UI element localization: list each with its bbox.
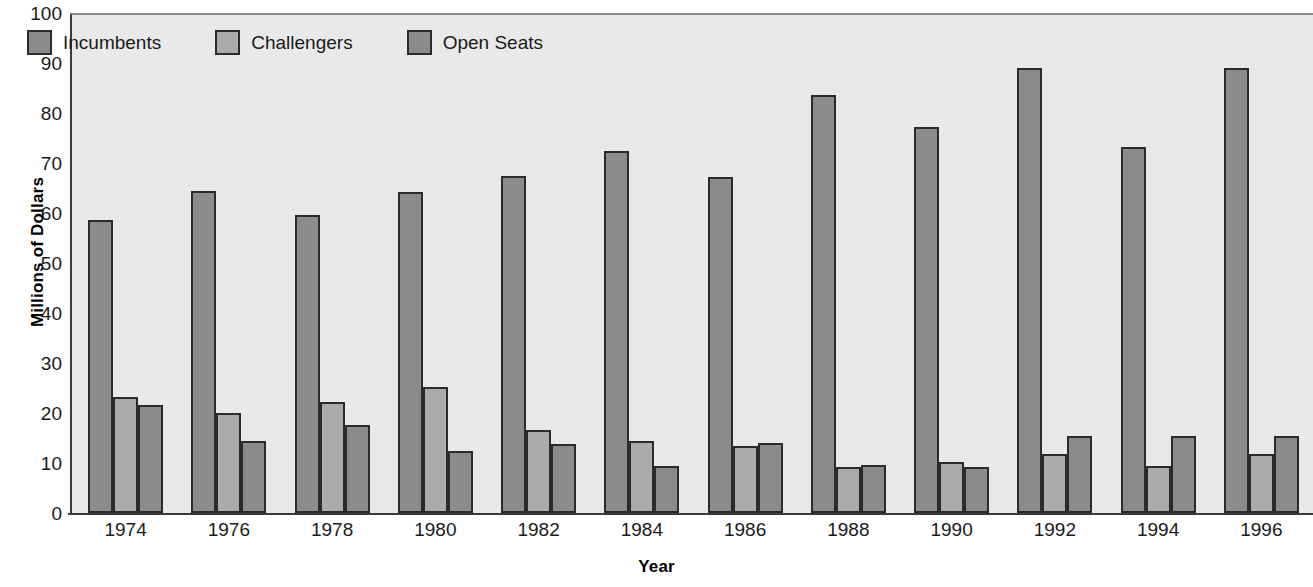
- bar-group-1988: [811, 13, 886, 513]
- x-axis-tick-label: 1996: [1240, 520, 1282, 539]
- x-axis-tick-label: 1978: [311, 520, 353, 539]
- y-axis-tick-label: 0: [6, 504, 62, 523]
- bar-chart: Millions of Dollars 10090807060504030201…: [0, 0, 1313, 587]
- x-axis-tick-label: 1976: [208, 520, 250, 539]
- legend-item-incumbents[interactable]: Incumbents: [27, 30, 161, 55]
- y-axis-tick-label: 40: [6, 304, 62, 323]
- bar-group-1992: [1017, 13, 1092, 513]
- bar-incumbents-1994: [1121, 147, 1146, 513]
- legend-swatch-icon: [407, 30, 432, 55]
- bar-incumbents-1974: [88, 220, 113, 513]
- y-axis-tick-label: 60: [6, 204, 62, 223]
- legend: IncumbentsChallengersOpen Seats: [27, 30, 543, 55]
- y-axis-tick-label: 80: [6, 104, 62, 123]
- x-axis-tick-labels: 1974197619781980198219841986198819901992…: [72, 520, 1311, 550]
- bar-group-1982: [501, 13, 576, 513]
- legend-label: Open Seats: [443, 33, 543, 52]
- bar-challengers-1976: [216, 413, 241, 513]
- bar-open-seats-1988: [861, 465, 886, 513]
- bar-open-seats-1996: [1274, 436, 1299, 514]
- legend-swatch-icon: [215, 30, 240, 55]
- bar-challengers-1980: [423, 387, 448, 514]
- bar-group-1986: [708, 13, 783, 513]
- bar-challengers-1982: [526, 430, 551, 514]
- bar-incumbents-1992: [1017, 68, 1042, 513]
- x-axis-tick-label: 1994: [1137, 520, 1179, 539]
- bar-challengers-1986: [733, 446, 758, 513]
- bar-group-1978: [295, 13, 370, 513]
- bar-group-1990: [914, 13, 989, 513]
- y-axis-tick-label: 20: [6, 404, 62, 423]
- bar-group-1994: [1121, 13, 1196, 513]
- bar-incumbents-1986: [708, 177, 733, 513]
- y-axis-tick-labels: 1009080706050403020100: [0, 0, 62, 525]
- bar-challengers-1974: [113, 397, 138, 514]
- legend-item-open-seats[interactable]: Open Seats: [407, 30, 543, 55]
- x-axis-tick-label: 1982: [517, 520, 559, 539]
- bar-challengers-1978: [320, 402, 345, 513]
- x-axis-tick-label: 1988: [827, 520, 869, 539]
- y-axis-tick-label: 90: [6, 54, 62, 73]
- bar-challengers-1984: [629, 441, 654, 514]
- bar-incumbents-1976: [191, 191, 216, 513]
- bar-group-1976: [191, 13, 266, 513]
- bar-open-seats-1986: [758, 443, 783, 514]
- bar-incumbents-1988: [811, 95, 836, 514]
- bars-layer: [72, 13, 1311, 513]
- bar-group-1980: [398, 13, 473, 513]
- y-axis-tick-label: 50: [6, 254, 62, 273]
- x-axis-tick-label: 1986: [724, 520, 766, 539]
- legend-label: Incumbents: [63, 33, 161, 52]
- x-axis-tick-label: 1980: [414, 520, 456, 539]
- bar-challengers-1988: [836, 467, 861, 513]
- bar-open-seats-1992: [1067, 436, 1092, 514]
- bar-open-seats-1984: [654, 466, 679, 513]
- bar-open-seats-1978: [345, 425, 370, 514]
- bar-group-1996: [1224, 13, 1299, 513]
- bar-incumbents-1990: [914, 127, 939, 513]
- y-axis-tick-label: 100: [6, 4, 62, 23]
- x-axis-line: [68, 513, 1313, 515]
- bar-challengers-1992: [1042, 454, 1067, 514]
- legend-item-challengers[interactable]: Challengers: [215, 30, 352, 55]
- x-axis-title: Year: [0, 557, 1313, 577]
- bar-open-seats-1974: [138, 405, 163, 514]
- bar-open-seats-1982: [551, 444, 576, 514]
- bar-group-1984: [604, 13, 679, 513]
- bar-open-seats-1976: [241, 441, 266, 513]
- bar-open-seats-1994: [1171, 436, 1196, 514]
- legend-label: Challengers: [251, 33, 352, 52]
- bar-incumbents-1980: [398, 192, 423, 513]
- bar-incumbents-1982: [501, 176, 526, 513]
- x-axis-tick-label: 1984: [621, 520, 663, 539]
- bar-incumbents-1984: [604, 151, 629, 514]
- y-axis-tick-label: 10: [6, 454, 62, 473]
- bar-incumbents-1978: [295, 215, 320, 513]
- bar-challengers-1990: [939, 462, 964, 513]
- x-axis-tick-label: 1992: [1034, 520, 1076, 539]
- bar-challengers-1994: [1146, 466, 1171, 513]
- x-axis-tick-label: 1974: [104, 520, 146, 539]
- bar-challengers-1996: [1249, 454, 1274, 514]
- legend-swatch-icon: [27, 30, 52, 55]
- bar-open-seats-1990: [964, 467, 989, 513]
- bar-open-seats-1980: [448, 451, 473, 513]
- x-axis-tick-label: 1990: [930, 520, 972, 539]
- y-axis-tick-label: 30: [6, 354, 62, 373]
- bar-group-1974: [88, 13, 163, 513]
- y-axis-tick-label: 70: [6, 154, 62, 173]
- bar-incumbents-1996: [1224, 68, 1249, 513]
